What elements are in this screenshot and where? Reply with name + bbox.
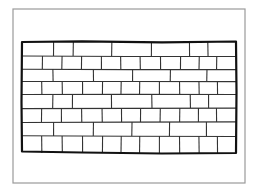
course-line: [22, 56, 236, 57]
brick-mortar-lines: [22, 42, 236, 153]
picture-frame: [13, 9, 245, 183]
illustration-canvas: [0, 0, 256, 192]
brick-wall-drawing: [0, 0, 256, 192]
